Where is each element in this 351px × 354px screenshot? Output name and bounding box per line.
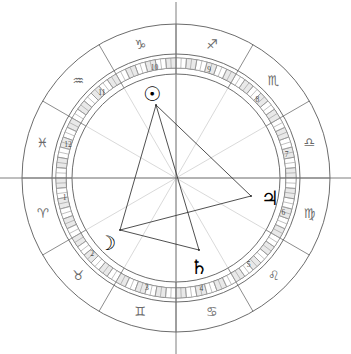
house-number-2: 2 [90,249,94,258]
sign-boundary-spoke [43,238,72,255]
house-cusp-spoke [266,123,271,126]
planet-saturn-glyph: ♄ [190,255,208,279]
house-number-6: 6 [282,208,286,217]
zodiac-sign-taurus: ♉ [73,268,85,283]
aspect-line-moon-saturn [120,230,199,250]
planet-sun-glyph: ☉ [143,82,161,106]
house-cusp-radius [124,178,176,268]
planet-jupiter-point [250,195,252,197]
wheel-group: ♈♉♊♋♌♍♎♏♐♑♒♓123456789101112☉☽♄♃ [0,2,351,354]
house-cusp-radius [86,126,176,178]
zodiac-sign-leo: ♌ [268,268,280,283]
sign-boundary-spoke [236,45,253,74]
house-number-11: 11 [98,88,105,97]
house-cusp-spoke [228,268,231,273]
house-number-3: 3 [145,283,149,292]
house-number-8: 8 [255,95,259,104]
zodiac-sign-pisces: ♓ [37,135,49,150]
astrology-wheel-svg: ♈♉♊♋♌♍♎♏♐♑♒♓123456789101112☉☽♄♃ [0,0,351,354]
sign-boundary-spoke [99,282,116,311]
aspect-line-sun-saturn [156,105,199,250]
sign-boundary-spoke [236,282,253,311]
house-number-5: 5 [247,260,251,269]
house-number-12: 12 [64,140,72,149]
astrology-chart: ♈♉♊♋♌♍♎♏♐♑♒♓123456789101112☉☽♄♃ [0,0,351,354]
zodiac-sign-aries: ♈ [37,206,49,221]
house-cusp-spoke [81,123,86,126]
house-number-7: 7 [285,150,289,159]
house-number-10: 10 [151,63,159,72]
aspect-line-moon-jupiter [120,196,251,230]
house-cusp-spoke [121,268,124,273]
planet-sun-point [155,104,157,106]
zodiac-sign-capricorn: ♑ [134,37,146,52]
house-cusp-spoke [228,83,231,88]
planet-saturn-point [198,249,200,251]
house-cusp-radius [176,126,266,178]
zodiac-sign-aquarius: ♒ [73,73,85,88]
sign-boundary-spoke [43,101,72,118]
planet-moon-glyph: ☽ [98,231,116,255]
zodiac-sign-scorpio: ♏ [268,73,280,88]
sign-boundary-spoke [280,101,309,118]
planet-jupiter-glyph: ♃ [261,186,279,210]
zodiac-sign-sagittarius: ♐ [206,37,218,52]
house-cusp-spoke [266,230,271,233]
house-number-4: 4 [200,284,204,293]
house-cusp-spoke [81,230,86,233]
planet-moon-point [119,229,121,231]
house-number-1: 1 [63,193,67,202]
zodiac-sign-virgo: ♍ [303,206,315,221]
sign-boundary-spoke [99,45,116,74]
house-cusp-radius [86,178,176,230]
house-cusp-radius [176,88,228,178]
sign-boundary-spoke [280,238,309,255]
zodiac-sign-cancer: ♋ [206,304,218,319]
aspect-line-sun-moon [120,105,156,230]
zodiac-sign-libra: ♎ [303,135,315,150]
house-number-9: 9 [207,65,211,74]
aspect-line-sun-jupiter [156,105,251,196]
zodiac-sign-gemini: ♊ [134,304,146,319]
house-cusp-spoke [121,83,124,88]
